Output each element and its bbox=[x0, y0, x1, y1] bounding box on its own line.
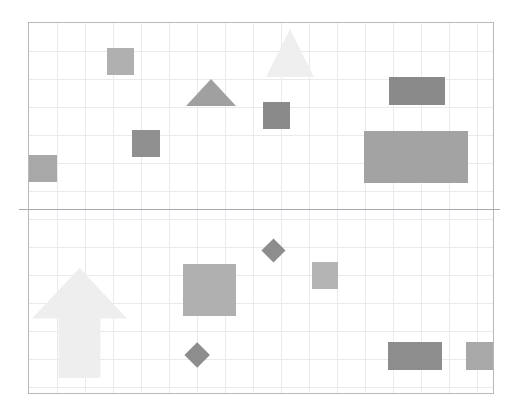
gridline-horizontal bbox=[29, 107, 493, 108]
gridline-horizontal bbox=[29, 247, 493, 248]
square-dark-center bbox=[263, 102, 290, 129]
square-top-left bbox=[107, 48, 134, 75]
rectangle-bottom-right bbox=[388, 342, 442, 370]
gridline-horizontal bbox=[29, 219, 493, 220]
figure-canvas bbox=[0, 0, 515, 418]
square-mid-left bbox=[132, 130, 160, 157]
gridline-horizontal bbox=[29, 51, 493, 52]
arrow-up-lower-left bbox=[32, 268, 127, 378]
horizontal-divider-line bbox=[19, 209, 500, 210]
rectangle-dark-upper-right bbox=[389, 77, 445, 105]
rectangle-large-upper-right bbox=[364, 131, 468, 183]
rectangle-bottom-far-right bbox=[466, 342, 494, 370]
square-small-lower-center bbox=[312, 262, 338, 289]
plot-area bbox=[28, 22, 494, 394]
triangle-large-light bbox=[266, 29, 314, 77]
square-left-upper bbox=[29, 155, 57, 182]
square-center-lower bbox=[183, 264, 236, 316]
triangle-small-center bbox=[186, 79, 236, 106]
gridline-horizontal bbox=[29, 387, 493, 388]
diamond-lower-lower-band bbox=[184, 342, 210, 368]
gridline-horizontal bbox=[29, 191, 493, 192]
